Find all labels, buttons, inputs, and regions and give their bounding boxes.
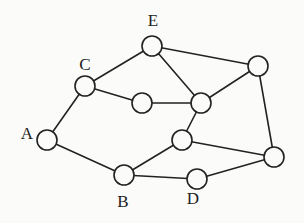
node-label-b: B xyxy=(117,192,128,211)
edge-a-b xyxy=(47,140,124,175)
edge-c-e xyxy=(85,46,152,86)
node-n5 xyxy=(264,147,284,167)
node-n2 xyxy=(191,93,211,113)
node-e xyxy=(142,36,162,56)
node-label-d: D xyxy=(187,189,199,208)
labels-layer: ABCDE xyxy=(21,11,199,211)
node-d xyxy=(187,169,207,189)
edge-n4-n5 xyxy=(182,140,274,157)
edge-e-n3 xyxy=(152,46,258,66)
node-label-e: E xyxy=(148,11,158,30)
edge-d-n5 xyxy=(197,157,274,179)
node-label-c: C xyxy=(79,55,90,74)
edge-b-d xyxy=(124,175,197,179)
node-c xyxy=(75,76,95,96)
node-label-a: A xyxy=(21,124,34,143)
node-n3 xyxy=(248,56,268,76)
node-n1 xyxy=(132,93,152,113)
nodes-layer xyxy=(37,36,284,189)
graph-diagram: ABCDE xyxy=(0,0,304,223)
edge-n3-n5 xyxy=(258,66,274,157)
node-n4 xyxy=(172,130,192,150)
node-b xyxy=(114,165,134,185)
node-a xyxy=(37,130,57,150)
